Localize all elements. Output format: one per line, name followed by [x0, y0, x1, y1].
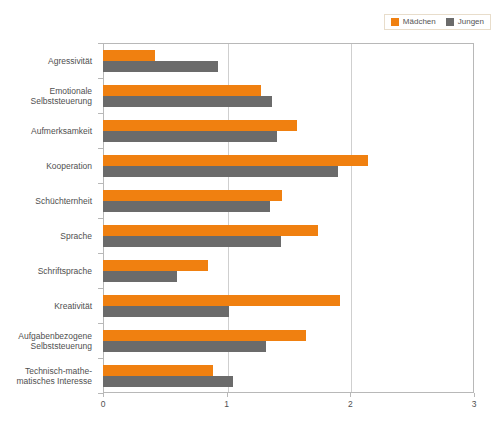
- y-axis-label-line: Selbststeuerung: [0, 341, 92, 352]
- y-axis-label-line: matisches Interesse: [0, 376, 92, 387]
- y-axis-label-6: Schriftsprache: [0, 265, 98, 276]
- y-axis-label-line: Selbststeuerung: [0, 96, 92, 107]
- y-axis-label-4: Schüchternheit: [0, 195, 98, 206]
- legend-swatch-jungen: [446, 18, 454, 26]
- x-axis-label-1: 1: [224, 399, 229, 409]
- chart-legend: Mädchen Jungen: [384, 14, 491, 30]
- legend-swatch-maedchen: [391, 18, 399, 26]
- legend-label-jungen: Jungen: [458, 17, 484, 26]
- x-axis-label-0: 0: [101, 399, 106, 409]
- y-axis-label-1: EmotionaleSelbststeuerung: [0, 85, 98, 106]
- legend-label-maedchen: Mädchen: [403, 17, 436, 26]
- y-axis-label-line: Aufmerksamkeit: [0, 125, 92, 136]
- x-tick-0: [103, 393, 104, 397]
- x-axis-ticks: [103, 393, 474, 398]
- y-axis-label-line: Kreativität: [0, 300, 92, 311]
- y-axis-label-9: Technisch-mathe-matisches Interesse: [0, 365, 98, 386]
- y-axis-label-line: Agressivität: [0, 55, 92, 66]
- x-tick-2: [350, 393, 351, 397]
- y-axis-label-line: Schriftsprache: [0, 265, 92, 276]
- bar-chart-figure: Mädchen Jungen AgressivitätEmotionaleSel…: [0, 0, 497, 434]
- x-axis-label-2: 2: [348, 399, 353, 409]
- y-axis-label-5: Sprache: [0, 230, 98, 241]
- y-axis-label-line: Kooperation: [0, 160, 92, 171]
- y-axis-label-line: Technisch-mathe-: [0, 365, 92, 376]
- y-axis-label-line: Emotionale: [0, 85, 92, 96]
- x-tick-1: [227, 393, 228, 397]
- x-tick-3: [474, 393, 475, 397]
- y-axis-label-0: Agressivität: [0, 55, 98, 66]
- y-axis-label-line: Sprache: [0, 230, 92, 241]
- y-axis-label-8: AufgabenbezogeneSelbststeuerung: [0, 330, 98, 351]
- y-axis-label-line: Schüchternheit: [0, 195, 92, 206]
- y-axis-labels: AgressivitätEmotionaleSelbststeuerungAuf…: [0, 43, 497, 393]
- legend-entry-jungen: Jungen: [446, 17, 484, 26]
- legend-entry-maedchen: Mädchen: [391, 17, 436, 26]
- x-axis-labels: 0123: [0, 399, 497, 413]
- y-axis-label-2: Aufmerksamkeit: [0, 125, 98, 136]
- y-axis-label-line: Aufgabenbezogene: [0, 330, 92, 341]
- y-axis-label-7: Kreativität: [0, 300, 98, 311]
- x-axis-label-3: 3: [472, 399, 477, 409]
- y-axis-label-3: Kooperation: [0, 160, 98, 171]
